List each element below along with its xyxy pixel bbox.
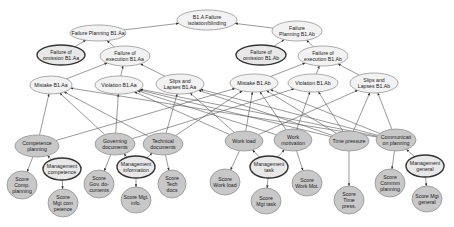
node-mgt-task[interactable]: Managementtask — [250, 156, 288, 178]
edge-fp_aa-to-b1a — [124, 23, 179, 30]
node-label: competence — [48, 169, 76, 175]
edge-sl_aa-to-fe_aa — [140, 64, 164, 76]
node-mis-ab[interactable]: Mistake B1.Ab — [230, 74, 278, 92]
node-label: Lapses B1.Ab — [358, 83, 390, 89]
node-label: on planning — [383, 140, 410, 146]
node-comp-pl[interactable]: Competenceplanning — [15, 135, 59, 157]
node-sl-ab[interactable]: Slips andLapses B1.Ab — [350, 73, 398, 93]
edge-comm_pl-to-sl_ab — [378, 93, 392, 129]
node-label: Planning B1.Ab — [279, 31, 315, 37]
edge-tech_doc-to-s_tech — [165, 155, 168, 170]
node-fo-aa[interactable]: Failure ofomission B1.Aa — [37, 45, 85, 65]
node-work-mot[interactable]: Workmotivation — [274, 129, 312, 151]
edge-sl_ab-to-fe_ab — [338, 64, 359, 75]
node-label: omission B1.Ab — [243, 55, 279, 61]
node-fe-aa[interactable]: Failure ofexecution B1.Aa — [100, 46, 150, 66]
node-label: general — [418, 199, 435, 205]
edge-vio_ab-to-fe_ab — [316, 66, 319, 74]
node-mis-aa[interactable]: Mistake B1.Aa — [30, 76, 72, 94]
node-s-tp[interactable]: ScoreTimepress. — [334, 186, 364, 214]
edge-mgt_task-to-work_mot — [278, 150, 285, 157]
node-vio-ab[interactable]: Violation B1.Ab — [288, 74, 338, 92]
node-s-comm[interactable]: ScoreCommmplanning — [375, 169, 405, 197]
bayesian-network-diagram: B1.A Failureisolation/blindingFailure Pl… — [0, 0, 454, 227]
node-label: cuments — [89, 187, 109, 193]
edge-mgt_task-to-work_load — [253, 150, 260, 157]
node-label: Violation B1.Ab — [295, 80, 330, 86]
edge-mgt_gen-to-s_mgtgen — [426, 177, 427, 186]
edge-tech_doc-to-sl_aa — [166, 94, 177, 133]
node-label: Mgt task — [256, 201, 276, 207]
edge-comm_pl-to-sl_aa — [200, 89, 378, 135]
edges-layer — [27, 23, 426, 189]
edge-fp_ab-to-b1a — [235, 23, 273, 28]
edge-fe_aa-to-fp_aa — [107, 41, 114, 47]
edge-work_mot-to-vio_aa — [137, 91, 276, 135]
node-fp-ab[interactable]: FailurePlanning B1.Ab — [272, 21, 322, 41]
node-label: Mistake B1.Ab — [237, 80, 271, 86]
node-label: Mistake B1.Aa — [34, 82, 68, 88]
edge-vio_aa-to-fe_aa — [121, 66, 123, 76]
node-label: Time pressure — [333, 138, 366, 144]
edge-mgt_task-to-s_mgttask — [267, 178, 268, 188]
node-fp-aa[interactable]: Failure Planning B1.Aa — [70, 25, 126, 41]
node-b1a[interactable]: B1.A Failureisolation/blinding — [177, 10, 237, 30]
node-mgt-info[interactable]: Managementinformation — [117, 156, 155, 178]
node-label: general — [416, 166, 433, 172]
edge-mis_aa-to-fe_aa — [66, 63, 107, 79]
node-work-load[interactable]: Work load — [225, 131, 263, 151]
node-mgt-gen[interactable]: Managementgeneral — [406, 155, 444, 177]
node-s-mgttask[interactable]: ScoreMgt task — [251, 188, 281, 214]
edge-gov_doc-to-mis_aa — [60, 93, 105, 134]
node-label: press. — [342, 203, 356, 209]
node-s-gov[interactable]: ScoreGov. do-cuments — [84, 170, 114, 198]
node-mgt-comp[interactable]: Managementcompetence — [43, 158, 81, 180]
node-label: information — [123, 167, 149, 173]
node-label: omission B1.Aa — [43, 55, 79, 61]
node-s-mgtcomp[interactable]: ScoreMgt competence — [48, 189, 78, 217]
edge-fe_ab-to-fp_ab — [307, 40, 314, 47]
edge-gov_doc-to-s_gov — [104, 155, 110, 171]
edge-mgt_info-to-tech_doc — [147, 153, 152, 158]
node-s-wl[interactable]: ScoreWork load — [210, 169, 240, 195]
edge-time_pr-to-sl_ab — [353, 93, 370, 131]
edge-comp_pl-to-mis_aa — [40, 94, 49, 135]
node-label: motivation — [281, 140, 305, 146]
node-label: task — [264, 167, 274, 173]
node-label: Work Mot. — [295, 183, 319, 189]
node-tech-doc[interactable]: Technicaldocuments — [143, 133, 183, 155]
edge-comp_pl-to-s_comp — [27, 157, 33, 172]
node-s-mgtgen[interactable]: Score Mgtgeneral — [412, 186, 442, 212]
node-fo-ab[interactable]: Failure ofomission B1.Ab — [236, 45, 286, 65]
node-label: docs — [167, 187, 178, 193]
node-gov-doc[interactable]: Governingdocuments — [95, 133, 135, 155]
node-s-tech[interactable]: ScoreTechdocs — [158, 170, 186, 198]
node-label: isolation/blinding — [188, 20, 226, 26]
edge-mgt_comp-to-comp_pl — [48, 156, 52, 160]
node-label: planning — [12, 188, 32, 194]
edge-gov_doc-to-vio_aa — [116, 94, 119, 133]
node-label: planning — [380, 186, 400, 192]
node-label: Work load — [232, 138, 255, 144]
edge-time_pr-to-sl_aa — [199, 90, 333, 135]
node-s-mgtinfo[interactable]: Score Mgt.info. — [121, 187, 151, 213]
nodes-layer: B1.A Failureisolation/blindingFailure Pl… — [7, 10, 444, 217]
edge-mis_ab-to-fe_ab — [271, 63, 306, 77]
node-label: Violation B1.Aa — [101, 82, 136, 88]
node-label: info. — [131, 200, 141, 206]
node-time-pr[interactable]: Time pressure — [329, 131, 369, 151]
node-s-wm[interactable]: ScoreWork Mot. — [292, 170, 322, 196]
node-fe-ab[interactable]: Failure ofexecution B1.Ab — [298, 46, 348, 66]
node-sl-aa[interactable]: Slips andLapses B1.Aa — [156, 74, 204, 94]
node-comm-pl[interactable]: Communication planning — [376, 129, 416, 151]
edge-fo_ab-to-fp_ab — [274, 40, 284, 47]
node-vio-aa[interactable]: Violation B1.Aa — [95, 76, 143, 94]
node-label: documents — [150, 144, 176, 150]
node-label: execution B1.Aa — [106, 56, 144, 62]
node-label: Lapses B1.Aa — [164, 84, 196, 90]
edge-mgt_gen-to-comm_pl — [406, 149, 414, 156]
node-label: Work load — [213, 182, 236, 188]
edge-fo_aa-to-fp_aa — [75, 40, 86, 47]
node-s-comp[interactable]: ScoreComp.planning — [7, 171, 37, 199]
node-label: petence — [54, 206, 73, 212]
